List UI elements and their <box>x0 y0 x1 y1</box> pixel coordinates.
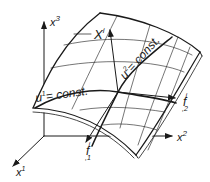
tangent-vector-f1-label: fi,1 <box>85 141 91 161</box>
x1-axis-label: x1 <box>15 165 26 178</box>
tangent-vector-f2-label: fi,2 <box>182 92 188 112</box>
curved-surface-diagram: x3 x2 x1 Xi u1= const. u2= const. fi,2 f… <box>0 0 210 182</box>
x3-axis-label: x3 <box>49 14 61 28</box>
x2-axis-label: x2 <box>176 129 188 143</box>
x1-axis <box>13 136 44 166</box>
